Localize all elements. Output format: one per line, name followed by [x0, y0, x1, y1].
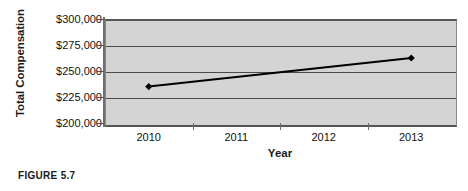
figure-caption: FIGURE 5.7 — [18, 170, 75, 181]
x-axis-tick-mark — [193, 123, 194, 130]
y-axis-tick-mark — [97, 71, 104, 72]
y-axis-tick-label: $200,000 — [30, 117, 102, 129]
y-axis-tick-mark — [97, 97, 104, 98]
y-axis-tick-mark — [97, 45, 104, 46]
y-axis-title: Total Compensation — [14, 3, 26, 123]
y-axis-tick-mark — [97, 19, 104, 20]
y-axis-tick-label: $300,000 — [30, 13, 102, 25]
y-axis-tick-label: $225,000 — [30, 91, 102, 103]
data-series-line — [105, 19, 455, 123]
x-axis-tick-mark — [280, 123, 281, 130]
data-point-marker — [145, 83, 152, 90]
figure-container: Total Compensation $300,000$275,000$250,… — [0, 0, 468, 191]
line-chart: Total Compensation $300,000$275,000$250,… — [0, 0, 468, 160]
x-axis-tick-label: 2011 — [201, 131, 271, 143]
y-axis-tick-label: $250,000 — [30, 65, 102, 77]
x-axis-title: Year — [105, 147, 455, 159]
x-axis-tick-label: 2013 — [376, 131, 446, 143]
y-axis-tick-label: $275,000 — [30, 39, 102, 51]
y-axis-tick-mark — [97, 123, 104, 124]
data-point-marker — [408, 54, 415, 61]
series-line — [149, 58, 412, 87]
y-axis-tick-labels: $300,000$275,000$250,000$225,000$200,000 — [30, 12, 102, 124]
x-axis-tick-label: 2012 — [289, 131, 359, 143]
x-axis-tick-mark — [368, 123, 369, 130]
x-axis-tick-label: 2010 — [114, 131, 184, 143]
